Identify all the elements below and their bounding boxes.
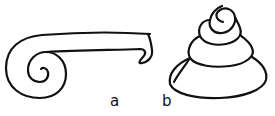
shell-coiling-diagram: a b bbox=[0, 0, 275, 116]
panel-label-b: b bbox=[162, 94, 172, 109]
shell-b-drawing bbox=[170, 6, 267, 98]
diagram-drawing bbox=[0, 0, 275, 116]
shell-a-drawing bbox=[6, 33, 152, 98]
panel-label-a: a bbox=[110, 94, 119, 109]
